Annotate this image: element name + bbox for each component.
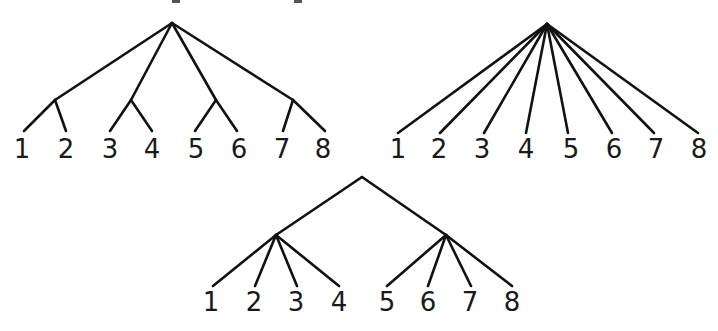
leaf-label: 5: [563, 134, 580, 164]
tree-edge: [172, 23, 293, 100]
leaf-label: 7: [462, 287, 479, 317]
leaf-label: 1: [14, 134, 31, 164]
leaf-label: 4: [518, 134, 535, 164]
cropped-heading-fragments: [172, 0, 302, 3]
leaf-label: 6: [420, 287, 437, 317]
tree-grouped-pairs: 12345678: [14, 23, 332, 164]
tree-flat: 12345678: [390, 24, 708, 164]
leaf-label: 2: [246, 287, 263, 317]
leaf-label: 2: [58, 134, 75, 164]
leaf-label: 4: [144, 134, 161, 164]
leaf-label: 3: [288, 287, 305, 317]
leaf-edge: [293, 100, 325, 131]
leaf-label: 8: [504, 287, 521, 317]
leaf-label: 3: [474, 134, 491, 164]
leaf-edge: [55, 100, 66, 131]
tree-edge: [131, 23, 172, 100]
leaf-label: 7: [648, 134, 665, 164]
tree-edge: [55, 23, 172, 100]
leaf-edge: [547, 24, 698, 133]
leaf-label: 2: [431, 134, 448, 164]
leaf-label: 5: [188, 134, 205, 164]
leaf-label: 6: [606, 134, 623, 164]
tree-edge: [276, 177, 362, 235]
tree-edge: [172, 23, 216, 100]
leaf-edge: [283, 100, 293, 131]
leaf-label: 5: [379, 287, 396, 317]
leaf-edge: [24, 100, 55, 131]
leaf-edge: [195, 100, 216, 131]
cropped-text-fragment: [294, 0, 302, 3]
leaf-label: 4: [331, 287, 348, 317]
leaf-label: 8: [315, 134, 332, 164]
leaf-edge: [446, 235, 471, 286]
leaf-edge: [398, 24, 547, 133]
leaf-label: 1: [203, 287, 220, 317]
leaf-label: 8: [691, 134, 708, 164]
leaf-label: 1: [390, 134, 407, 164]
leaf-edge: [216, 100, 237, 131]
tree-grouped-quads: 12345678: [203, 177, 521, 317]
leaf-label: 6: [231, 134, 248, 164]
leaf-edge: [547, 24, 654, 133]
leaf-edge: [446, 235, 512, 286]
leaf-edge: [131, 100, 152, 131]
cropped-text-fragment: [172, 0, 180, 3]
leaf-label: 3: [102, 134, 119, 164]
leaf-label: 7: [274, 134, 291, 164]
tree-diagram-canvas: 12345678 12345678 12345678: [0, 0, 718, 331]
tree-edge: [362, 177, 446, 235]
leaf-edge: [110, 100, 131, 131]
